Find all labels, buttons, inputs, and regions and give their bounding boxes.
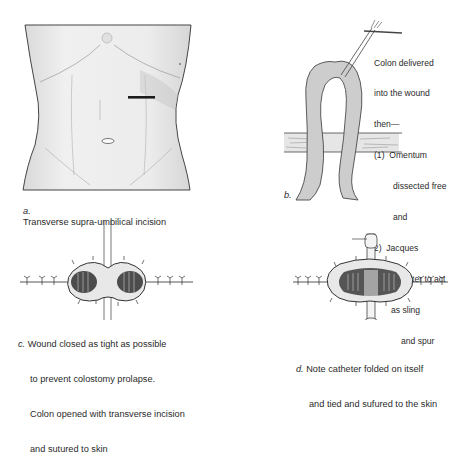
panel-d-catheter-fixed-illustration xyxy=(240,220,476,320)
caption-c-line: and sutured to skin xyxy=(18,444,185,456)
caption-c-line: Wound closed as tight as possible xyxy=(28,339,167,349)
umbilicus xyxy=(102,139,114,144)
panel-label-a: a. xyxy=(23,206,31,216)
incision-mark xyxy=(128,96,155,99)
abdomen-drawing xyxy=(0,0,240,215)
panel-label-d: d. xyxy=(296,364,304,374)
wound-closure-drawing xyxy=(0,220,240,320)
annotation-line: Colon delivered xyxy=(374,58,447,68)
panel-label-c: c. xyxy=(18,339,25,349)
caption-d-line: Note catheter folded on itself xyxy=(306,364,423,374)
catheter-fixed-drawing xyxy=(240,220,476,320)
annotation-line: dissected free xyxy=(374,181,447,191)
caption-c-line: to prevent colostomy prolapse. xyxy=(18,374,185,386)
caption-d: d. Note catheter folded on itself and ti… xyxy=(296,341,437,422)
caption-c-line: Colon opened with transverse incision xyxy=(18,409,185,421)
annotation-line: then— xyxy=(374,119,447,129)
annotation-line: (1) Omentum xyxy=(374,150,447,160)
panel-label-b: b. xyxy=(284,190,292,202)
caption-d-line: and tied and sufured to the skin xyxy=(296,399,437,411)
caption-c: c. Wound closed as tight as possible to … xyxy=(18,316,185,456)
annotation-line: into the wound xyxy=(374,88,447,98)
panel-c-wound-closure-illustration xyxy=(0,220,240,320)
panel-a-abdomen-illustration xyxy=(0,0,240,215)
